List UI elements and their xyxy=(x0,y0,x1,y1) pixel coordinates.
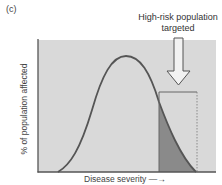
x-axis-label: Disease severity —→ xyxy=(84,174,166,184)
y-axis-label: % of population affected xyxy=(19,54,29,164)
plot-area xyxy=(38,40,216,172)
distribution-chart xyxy=(0,0,222,185)
